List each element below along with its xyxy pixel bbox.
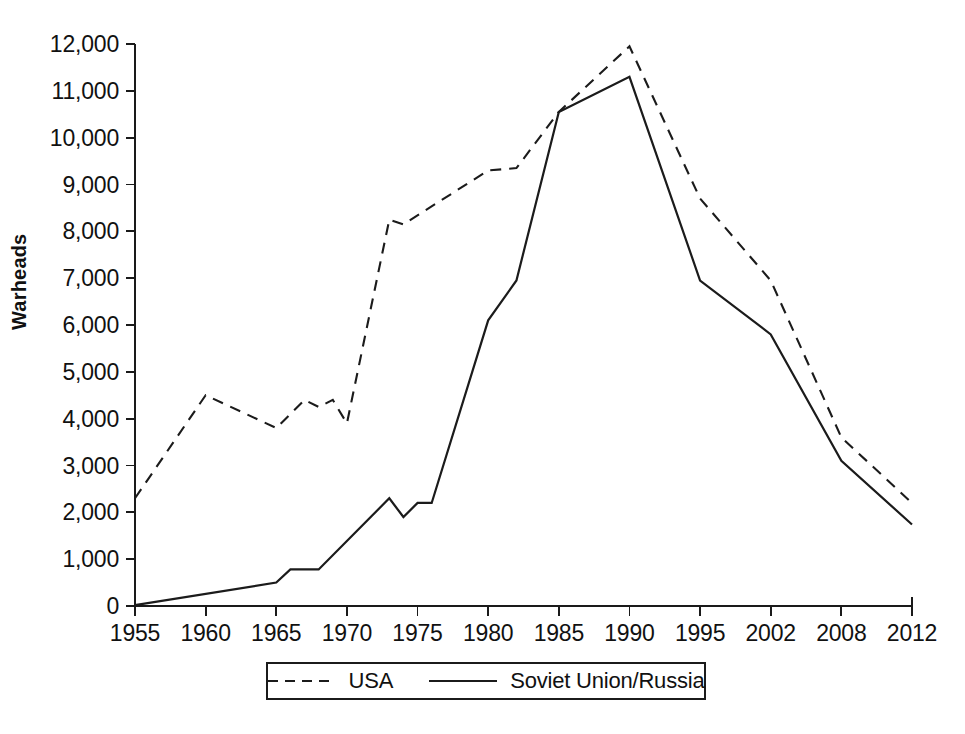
page-artifact-footer xyxy=(0,718,965,732)
y-axis-tick-label: 1,000 xyxy=(0,546,119,573)
y-axis-tick-label: 0 xyxy=(0,593,119,620)
series-line-soviet xyxy=(135,77,912,605)
y-axis-tick-label: 5,000 xyxy=(0,358,119,385)
x-axis-tick-label: 2002 xyxy=(746,620,796,647)
legend-item-soviet: Soviet Union/Russia xyxy=(429,668,704,694)
series-line-usa xyxy=(135,46,912,503)
y-axis-tick-label: 3,000 xyxy=(0,452,119,479)
y-axis-tick-label: 11,000 xyxy=(0,77,119,104)
x-axis-tick-label: 1985 xyxy=(534,620,584,647)
x-axis-tick-label: 1965 xyxy=(251,620,301,647)
legend-swatch-dashed xyxy=(268,675,336,687)
x-axis-tick-label: 1995 xyxy=(675,620,725,647)
x-axis-tick-label: 1955 xyxy=(110,620,160,647)
y-axis-title: Warheads xyxy=(8,234,31,330)
x-axis-tick-label: 1970 xyxy=(322,620,372,647)
x-axis-tick-label: 1980 xyxy=(463,620,513,647)
y-axis-tick-label: 10,000 xyxy=(0,124,119,151)
x-axis-tick-label: 1990 xyxy=(604,620,654,647)
legend-swatch-solid xyxy=(429,675,497,687)
x-axis-tick-label: 2012 xyxy=(887,620,937,647)
y-axis-tick-label: 4,000 xyxy=(0,405,119,432)
data-series xyxy=(135,46,912,605)
chart-container: 01,0002,0003,0004,0005,0006,0007,0008,00… xyxy=(0,0,965,734)
y-axis-tick-label: 9,000 xyxy=(0,171,119,198)
x-axis-tick-label: 1960 xyxy=(180,620,230,647)
y-axis-tick-label: 2,000 xyxy=(0,499,119,526)
legend-item-usa: USA xyxy=(268,668,394,694)
x-axis-tick-label: 2008 xyxy=(816,620,866,647)
x-axis-tick-label: 1975 xyxy=(392,620,442,647)
legend-label-soviet: Soviet Union/Russia xyxy=(510,668,704,694)
chart-legend: USA Soviet Union/Russia xyxy=(266,662,706,700)
y-axis-tick-label: 12,000 xyxy=(0,31,119,58)
legend-label-usa: USA xyxy=(349,668,394,694)
